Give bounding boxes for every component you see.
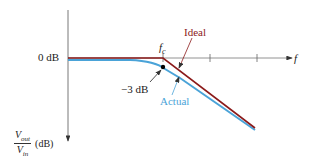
ideal-label: Ideal: [184, 26, 206, 38]
y-axis-label: Vout Vin (dB): [14, 129, 53, 158]
ideal-leader: [179, 38, 192, 68]
y-num: Vout: [14, 129, 31, 144]
minus3db-label: −3 dB: [121, 83, 148, 95]
actual-label: Actual: [160, 95, 189, 107]
zero-db-label: 0 dB: [38, 51, 59, 63]
y-den: Vin: [17, 144, 29, 158]
actual-leader: [172, 77, 179, 95]
frequency-axis-label: f: [294, 52, 297, 64]
minus3db-leader: [150, 70, 161, 82]
cutoff-sub: c: [162, 47, 166, 56]
cutoff-frequency-label: fc: [159, 41, 166, 56]
y-unit: (dB): [35, 138, 53, 149]
minus-3db-point: [161, 65, 165, 69]
